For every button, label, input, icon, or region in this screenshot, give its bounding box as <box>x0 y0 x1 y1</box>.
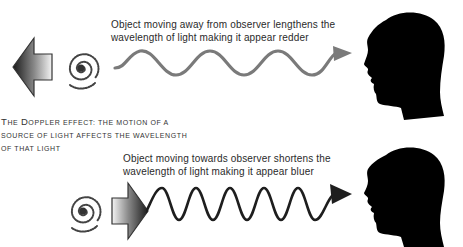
blueshift-caption-line1: Object moving towards observer shortens … <box>123 152 331 165</box>
observer-head-silhouette-icon <box>356 8 446 120</box>
redshift-caption-line1: Object moving away from observer lengthe… <box>111 18 335 31</box>
long-wavelength-wave <box>112 44 354 80</box>
motion-arrow-right-icon <box>110 181 150 241</box>
motion-arrow-left-icon <box>12 36 54 98</box>
redshift-panel: Object moving away from observer lengthe… <box>0 0 463 123</box>
blueshift-panel: Object moving towards observer shortens … <box>0 123 463 246</box>
blueshift-caption: Object moving towards observer shortens … <box>123 152 331 178</box>
redshift-caption: Object moving away from observer lengthe… <box>111 18 335 44</box>
blueshift-caption-line2: wavelength of light making it appear blu… <box>123 165 331 178</box>
short-wavelength-wave <box>146 180 358 226</box>
observer-head-silhouette-icon <box>356 143 446 247</box>
redshift-caption-line2: wavelength of light making it appear red… <box>111 31 335 44</box>
galaxy-spiral-icon <box>58 40 104 94</box>
galaxy-spiral-icon <box>60 183 106 237</box>
